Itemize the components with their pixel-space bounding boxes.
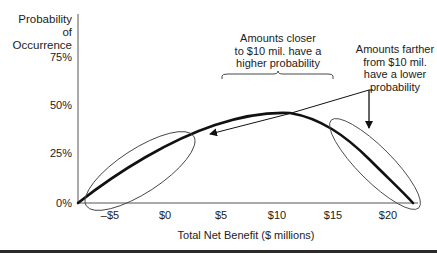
probability-chart: 0% 25% 50% 75% –$5 $0 $5 $10 $15 $20 Tot… bbox=[0, 0, 437, 254]
y-tick-25: 25% bbox=[50, 147, 72, 159]
peak-bracket bbox=[222, 71, 333, 79]
annotation-higher-probability: Amounts closer to $10 mil. have a higher… bbox=[228, 32, 328, 70]
annotation-higher-line-3: higher probability bbox=[228, 57, 328, 70]
y-tick-50: 50% bbox=[50, 99, 72, 111]
annotation-higher-line-2: to $10 mil. have a bbox=[228, 45, 328, 58]
left-tail-ellipse bbox=[74, 118, 205, 225]
annotation-higher-line-1: Amounts closer bbox=[228, 32, 328, 45]
x-tick-5: $5 bbox=[215, 209, 227, 221]
x-tick-15: $15 bbox=[324, 209, 342, 221]
annotation-lower-line-4: probability bbox=[353, 81, 437, 94]
y-tick-75: 75% bbox=[50, 51, 72, 63]
probability-curve bbox=[78, 113, 413, 203]
annotation-lower-line-2: from $10 mil. bbox=[353, 56, 437, 69]
x-tick-0: $0 bbox=[159, 209, 171, 221]
annotation-lower-line-3: have a lower bbox=[353, 68, 437, 81]
annotation-lower-probability: Amounts farther from $10 mil. have a low… bbox=[353, 43, 437, 93]
bottom-divider bbox=[0, 250, 437, 253]
x-tick-10: $10 bbox=[268, 209, 286, 221]
y-tick-0: 0% bbox=[56, 197, 72, 209]
annotation-lower-line-1: Amounts farther bbox=[353, 43, 437, 56]
x-tick-20: $20 bbox=[379, 209, 397, 221]
x-axis-title: Total Net Benefit ($ millions) bbox=[178, 229, 315, 241]
x-tick-neg5: –$5 bbox=[101, 209, 119, 221]
annotation-leader-line bbox=[288, 90, 369, 114]
